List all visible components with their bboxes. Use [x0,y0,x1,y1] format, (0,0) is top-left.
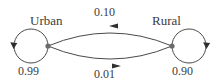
node-dot-rural [169,43,174,48]
arrowhead-rural-to-urban [109,24,118,29]
arrowhead-rural-self-loop [203,42,210,49]
edge-label-urban-self-loop: 0.99 [18,65,39,77]
node-label-rural: Rural [152,14,181,27]
state-transition-diagram: Urban Rural 0.10 0.01 0.99 0.90 [0,0,221,84]
node-label-urban: Urban [30,14,63,27]
edge-label-rural-self-loop: 0.90 [172,65,193,77]
edge-label-urban-to-rural: 0.01 [94,68,115,80]
arrowhead-urban-self-loop [10,42,17,49]
edge-urban-to-rural-arc [48,46,172,59]
urban-self-loop-circle [14,29,48,63]
edge-label-rural-to-urban: 0.10 [94,6,115,18]
rural-self-loop-circle [172,29,206,63]
node-dot-urban [45,43,50,48]
edge-rural-to-urban-arc [48,33,172,46]
